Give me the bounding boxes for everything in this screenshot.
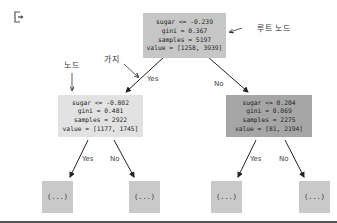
root-gini: gini = 0.367: [162, 27, 208, 36]
bottom-divider: [0, 221, 337, 223]
left-samples: samples = 2922: [74, 116, 127, 125]
annotation-root-node: 루트 노드: [257, 22, 290, 33]
leaf-node: (...): [129, 181, 160, 213]
root-value: value = [1258, 3939]: [147, 44, 223, 53]
leaf-label: (...): [216, 193, 237, 201]
root-samples: samples = 5197: [158, 36, 211, 45]
annotation-node: 노드: [64, 59, 79, 70]
left-condition: sugar <= -0.802: [72, 99, 129, 108]
root-condition: sugar <= -0.239: [156, 18, 213, 27]
leaf-label: (...): [304, 193, 325, 201]
edge-label-root-no: No: [214, 80, 224, 88]
edge-label-left-no: No: [110, 155, 120, 163]
leaf-node: (...): [211, 181, 242, 213]
right-gini: gini = 0.069: [246, 107, 292, 116]
left-value: value = [1177, 1745]: [63, 125, 139, 134]
leaf-label: (...): [134, 193, 155, 201]
leaf-label: (...): [47, 193, 68, 201]
edge-label-right-yes: Yes: [250, 155, 261, 163]
root-node: sugar <= -0.239 gini = 0.367 samples = 5…: [143, 13, 226, 58]
left-node: sugar <= -0.802 gini = 0.481 samples = 2…: [58, 95, 143, 137]
left-gini: gini = 0.481: [78, 107, 124, 116]
edge-label-right-no: No: [279, 155, 289, 163]
right-value: value = [81, 2194]: [235, 125, 303, 134]
leaf-node: (...): [299, 181, 330, 213]
right-condition: sugar <= 0.204: [242, 99, 295, 108]
right-samples: samples = 2275: [242, 116, 295, 125]
leaf-node: (...): [42, 181, 73, 213]
edge-label-root-yes: Yes: [147, 75, 158, 83]
edge-label-left-yes: Yes: [82, 155, 93, 163]
annotation-branch: 가지: [104, 53, 119, 64]
right-node: sugar <= 0.204 gini = 0.069 samples = 22…: [226, 95, 312, 137]
